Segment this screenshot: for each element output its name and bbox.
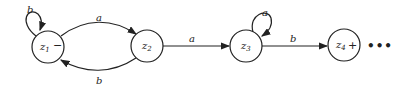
transition-z2-z1: b bbox=[61, 58, 136, 86]
transition-label: a bbox=[189, 33, 195, 44]
state-z2: z2 bbox=[131, 30, 163, 62]
automaton-diagram: b a b a a b z1 − z2 z3 z4 + bbox=[0, 0, 401, 86]
transition-label: b bbox=[27, 4, 33, 15]
transition-z1-z1: b bbox=[26, 4, 41, 36]
transition-z3-z3: a bbox=[252, 7, 271, 36]
continuation-ellipsis: ••• bbox=[367, 39, 393, 53]
transition-z1-z2: a bbox=[61, 12, 136, 36]
transition-label: b bbox=[290, 33, 296, 44]
state-z3: z3 bbox=[230, 30, 262, 62]
transition-label: a bbox=[262, 7, 268, 18]
state-z1: z1 − bbox=[32, 31, 64, 63]
final-marker: + bbox=[348, 39, 357, 52]
state-z4: z4 + bbox=[328, 29, 360, 61]
transition-z2-z3: a bbox=[163, 33, 229, 46]
transition-z3-z4: b bbox=[262, 33, 327, 46]
transition-label: a bbox=[96, 12, 102, 23]
start-marker: − bbox=[53, 39, 62, 52]
transition-label: b bbox=[96, 75, 102, 86]
